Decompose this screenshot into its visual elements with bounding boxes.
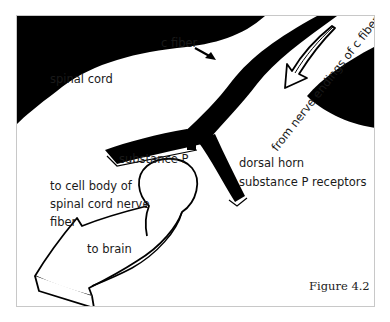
dorsal-horn-label: dorsal horn <box>239 158 304 170</box>
spinal-cord-label: spinal cord <box>50 74 113 86</box>
c-fiber-label: c fiber <box>161 38 197 50</box>
figure-frame: c fiber from nerve endings of c fiber sp… <box>16 15 375 307</box>
figure-caption: Figure 4.2 <box>309 279 370 293</box>
to-cell-body-label-line2: spinal cord nerve <box>50 199 150 211</box>
substance-p-label: substance P <box>119 154 188 166</box>
to-cell-body-label-line3: fiber <box>50 217 76 229</box>
to-brain-label: to brain <box>87 244 132 256</box>
to-cell-body-label-line1: to cell body of <box>50 181 132 193</box>
right-terminal-branch <box>197 134 245 202</box>
substance-p-receptors-label: substance P receptors <box>239 177 367 189</box>
diagram-art <box>17 16 375 307</box>
